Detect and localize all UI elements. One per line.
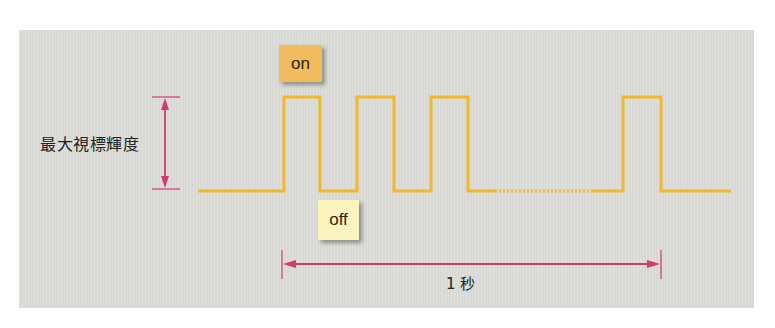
off-label-box: off xyxy=(318,200,359,240)
final-pulse xyxy=(593,97,731,191)
on-label-box: on xyxy=(279,45,322,82)
off-label: off xyxy=(329,210,348,230)
pulse-waveform xyxy=(198,97,495,191)
on-label: on xyxy=(291,54,310,74)
max-target-luminance-label: 最大視標輝度 xyxy=(40,131,139,155)
one-second-label: 1 秒 xyxy=(446,272,475,293)
amplitude-arrow xyxy=(152,97,180,189)
waveform-diagram xyxy=(0,0,775,328)
